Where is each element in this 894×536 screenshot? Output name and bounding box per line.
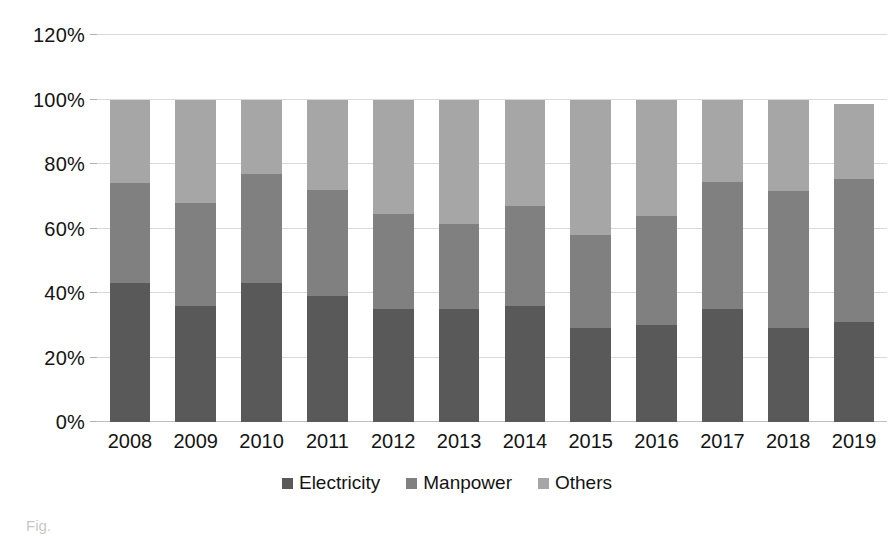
bar-segment-electricity[interactable] (307, 296, 348, 422)
bar-segment-manpower[interactable] (570, 235, 611, 329)
bar-segment-electricity[interactable] (439, 309, 480, 422)
bar-segment-manpower[interactable] (505, 206, 546, 306)
bar-segment-electricity[interactable] (241, 283, 282, 422)
y-tick-mark (90, 421, 97, 422)
bar-segment-electricity[interactable] (110, 283, 151, 422)
bar-segment-manpower[interactable] (702, 182, 743, 309)
bar-segment-others[interactable] (505, 100, 546, 206)
bar-segment-others[interactable] (570, 100, 611, 235)
square-marker (538, 478, 549, 489)
bar-segment-others[interactable] (307, 100, 348, 190)
bar-stack[interactable] (307, 35, 348, 422)
bar-stack[interactable] (241, 35, 282, 422)
bar-stack[interactable] (175, 35, 216, 422)
bar-segment-manpower[interactable] (636, 216, 677, 326)
legend-item-others[interactable]: Others (538, 472, 612, 494)
bar-group[interactable]: 2018 (768, 35, 809, 422)
bar-segment-others[interactable] (175, 100, 216, 203)
y-tick-mark (90, 292, 97, 293)
bar-segment-electricity[interactable] (702, 309, 743, 422)
x-axis-label: 2009 (173, 430, 218, 453)
bar-group[interactable]: 2019 (834, 35, 875, 422)
x-axis-label: 2012 (371, 430, 416, 453)
bar-group[interactable]: 2009 (175, 35, 216, 422)
y-axis-label: 80% (44, 153, 85, 176)
bar-group[interactable]: 2012 (373, 35, 414, 422)
x-axis-label: 2013 (437, 430, 482, 453)
bar-stack[interactable] (505, 35, 546, 422)
bar-segment-manpower[interactable] (175, 203, 216, 306)
y-axis-label: 40% (44, 282, 85, 305)
bar-series-container: 2008200920102011201220132014201520162017… (97, 35, 887, 422)
bar-stack[interactable] (439, 35, 480, 422)
legend-item-manpower[interactable]: Manpower (406, 472, 512, 494)
x-axis-label: 2014 (503, 430, 548, 453)
legend-item-label: Others (555, 472, 612, 494)
bar-segment-others[interactable] (439, 100, 480, 224)
bar-segment-others[interactable] (373, 100, 414, 214)
x-axis-label: 2011 (306, 430, 349, 453)
bar-stack[interactable] (768, 35, 809, 422)
x-axis-label: 2015 (568, 430, 613, 453)
x-axis-label: 2008 (108, 430, 153, 453)
bar-segment-manpower[interactable] (307, 190, 348, 296)
y-axis-label: 100% (33, 88, 85, 111)
y-tick-mark (90, 163, 97, 164)
bar-group[interactable]: 2015 (570, 35, 611, 422)
bar-segment-electricity[interactable] (373, 309, 414, 422)
bar-segment-electricity[interactable] (834, 322, 875, 422)
bar-segment-electricity[interactable] (636, 325, 677, 422)
bar-segment-manpower[interactable] (110, 183, 151, 283)
legend-item-label: Manpower (423, 472, 512, 494)
x-axis-label: 2019 (832, 430, 877, 453)
bar-segment-manpower[interactable] (241, 174, 282, 284)
bar-group[interactable]: 2014 (505, 35, 546, 422)
x-axis-label: 2016 (634, 430, 679, 453)
x-axis-label: 2017 (700, 430, 745, 453)
bar-segment-electricity[interactable] (505, 306, 546, 422)
bar-stack[interactable] (702, 35, 743, 422)
y-axis-label: 60% (44, 217, 85, 240)
caption-strip: Fig. (0, 520, 894, 536)
bar-stack[interactable] (110, 35, 151, 422)
legend-item-label: Electricity (299, 472, 380, 494)
y-tick-mark (90, 357, 97, 358)
bar-segment-others[interactable] (636, 100, 677, 216)
chart-legend: ElectricityManpowerOthers (0, 472, 894, 494)
bar-stack[interactable] (636, 35, 677, 422)
bar-segment-others[interactable] (768, 100, 809, 192)
x-axis-label: 2018 (766, 430, 811, 453)
bar-segment-others[interactable] (834, 104, 875, 178)
bar-segment-manpower[interactable] (439, 224, 480, 309)
bar-segment-manpower[interactable] (768, 191, 809, 328)
bar-group[interactable]: 2016 (636, 35, 677, 422)
legend-item-electricity[interactable]: Electricity (282, 472, 380, 494)
bar-group[interactable]: 2017 (702, 35, 743, 422)
bar-stack[interactable] (834, 35, 875, 422)
bar-segment-manpower[interactable] (373, 214, 414, 309)
bar-group[interactable]: 2013 (439, 35, 480, 422)
bar-segment-others[interactable] (241, 100, 282, 174)
y-tick-mark (90, 228, 97, 229)
bar-group[interactable]: 2011 (307, 35, 348, 422)
bar-stack[interactable] (570, 35, 611, 422)
bar-segment-others[interactable] (110, 100, 151, 184)
bar-segment-electricity[interactable] (768, 328, 809, 422)
stacked-bar-chart: 0%20%40%60%80%100%120% 20082009201020112… (0, 0, 894, 536)
bar-stack[interactable] (373, 35, 414, 422)
y-axis-label: 120% (33, 24, 85, 47)
bar-segment-electricity[interactable] (175, 306, 216, 422)
square-marker (282, 478, 293, 489)
bar-group[interactable]: 2008 (110, 35, 151, 422)
bar-group[interactable]: 2010 (241, 35, 282, 422)
x-axis-label: 2010 (239, 430, 284, 453)
bar-segment-electricity[interactable] (570, 328, 611, 422)
bar-segment-manpower[interactable] (834, 179, 875, 323)
plot-area: 0%20%40%60%80%100%120% 20082009201020112… (97, 35, 887, 422)
square-marker (406, 478, 417, 489)
y-axis-label: 20% (44, 346, 85, 369)
y-tick-mark (90, 99, 97, 100)
bar-segment-others[interactable] (702, 100, 743, 182)
y-tick-mark (90, 34, 97, 35)
caption-text: Fig. (26, 520, 51, 534)
